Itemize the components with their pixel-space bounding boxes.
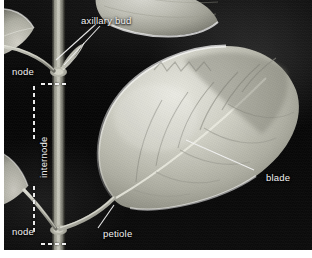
label-blade: blade — [266, 172, 290, 183]
label-petiole: petiole — [103, 228, 132, 239]
label-internode: internode — [38, 137, 49, 178]
label-node-upper: node — [12, 66, 34, 77]
photograph-plate: axillary bud node internode node petiole… — [4, 0, 312, 250]
dash-node-upper — [41, 71, 69, 73]
label-axillary-bud: axillary bud — [81, 15, 131, 26]
leaf-anatomy-figure: axillary bud node internode node petiole… — [0, 0, 312, 258]
dash-internode-upper — [33, 86, 35, 142]
dash-node-lower — [41, 231, 69, 233]
label-node-lower: node — [12, 226, 34, 237]
film-grain — [4, 0, 312, 250]
